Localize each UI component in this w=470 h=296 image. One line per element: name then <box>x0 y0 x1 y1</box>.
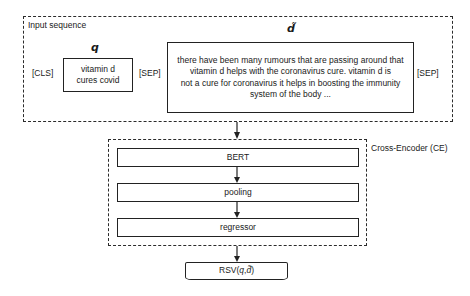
arrowhead-icon <box>234 212 240 218</box>
arrowhead-icon <box>234 132 240 139</box>
arrowhead-icon <box>234 256 240 262</box>
arrowhead-icon <box>234 177 240 183</box>
flow-arrows <box>0 0 470 296</box>
